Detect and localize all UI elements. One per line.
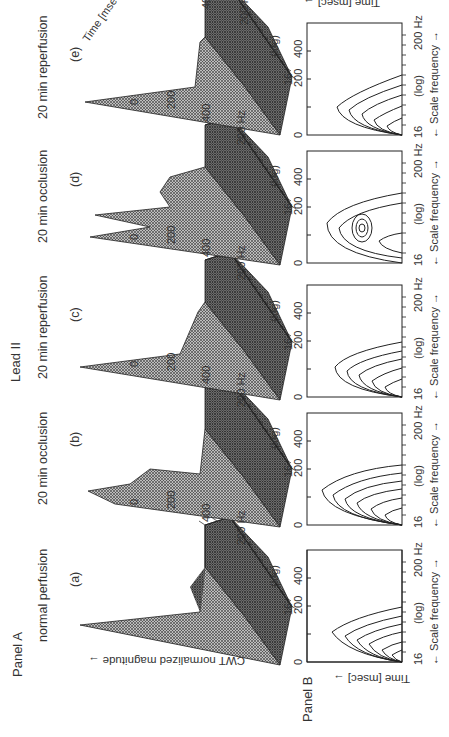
tick-16: 16	[412, 388, 424, 400]
tick-log: (log)	[268, 165, 280, 187]
scale-frequency-label: ← Scale frequency →	[428, 293, 440, 400]
tick-0: 0	[128, 361, 140, 367]
tick-200: 200	[292, 197, 304, 215]
tick-400: 400	[292, 168, 304, 186]
tick-200hz: 200 Hz	[235, 110, 247, 145]
tick-400: 400	[200, 366, 212, 384]
tick-0: 0	[292, 260, 304, 266]
tick-200: 200	[165, 491, 177, 509]
surface-a	[80, 517, 296, 665]
tick-400: 400	[200, 239, 212, 257]
tick-log: (log)	[412, 465, 424, 487]
tick-200: 200	[292, 69, 304, 87]
tick-0: 0	[292, 132, 304, 138]
tick-400: 400	[292, 40, 304, 58]
tick-200: 200	[165, 353, 177, 371]
surface-b	[88, 379, 296, 527]
tick-16: 16	[412, 126, 424, 138]
tick-400: 400	[200, 504, 212, 522]
figure-canvas: Panel A Lead II CWT normalized magnitude…	[0, 0, 449, 737]
tick-log: (log)	[268, 300, 280, 322]
contour-c	[307, 285, 406, 397]
tick-200: 200	[165, 226, 177, 244]
tick-200hz: 200 Hz	[235, 510, 247, 545]
tick-400: 400	[292, 302, 304, 320]
surface-c	[80, 252, 296, 400]
tick-200hz: 200 Hz	[412, 542, 424, 577]
tick-400: 400	[200, 104, 212, 122]
tick-log: (log)	[268, 427, 280, 449]
tick-200hz: 200 Hz	[412, 15, 424, 50]
tick-200: 200	[292, 331, 304, 349]
tick-200hz: 200 Hz	[238, 0, 250, 25]
tick-200: 200	[165, 91, 177, 109]
tick-200: 200	[292, 459, 304, 477]
scale-frequency-label: ← Scale frequency →	[428, 558, 440, 665]
tick-log: (log)	[268, 35, 280, 57]
scale-frequency-label: ← Scale frequency →	[428, 159, 440, 266]
tick-0: 0	[292, 522, 304, 528]
tick-200hz: 200 Hz	[235, 245, 247, 280]
tick-16: 16	[412, 254, 424, 266]
contour-plots	[295, 0, 449, 737]
tick-0: 0	[292, 659, 304, 665]
tick-log: (log)	[412, 337, 424, 359]
tick-log: (log)	[268, 565, 280, 587]
contour-d	[307, 151, 406, 263]
tick-0: 0	[128, 499, 140, 505]
tick-200: 200	[292, 596, 304, 614]
tick-200hz: 200 Hz	[412, 277, 424, 312]
tick-200hz: 200 Hz	[412, 143, 424, 178]
tick-400: 400	[292, 567, 304, 585]
tick-log: (log)	[412, 203, 424, 225]
tick-16: 16	[412, 516, 424, 528]
scale-frequency-label: ← Scale frequency →	[428, 31, 440, 138]
tick-200hz: 200 Hz	[235, 372, 247, 407]
surface-plots	[0, 0, 300, 737]
surface-e	[85, 0, 296, 135]
tick-0: 0	[292, 394, 304, 400]
contour-b	[307, 413, 406, 525]
panel-b-time-label-right: Time [msec] →	[303, 0, 380, 9]
surface-d	[90, 117, 296, 265]
tick-200hz: 200 Hz	[412, 405, 424, 440]
tick-0: 0	[128, 99, 140, 105]
tick-log: (log)	[412, 602, 424, 624]
contour-e	[307, 23, 406, 135]
tick-400: 400	[292, 430, 304, 448]
tick-log: (log)	[412, 75, 424, 97]
tick-400: 400	[200, 0, 212, 9]
tick-0: 0	[128, 234, 140, 240]
tick-16: 16	[412, 653, 424, 665]
scale-frequency-label: ← Scale frequency →	[428, 421, 440, 528]
contour-a	[307, 550, 406, 662]
